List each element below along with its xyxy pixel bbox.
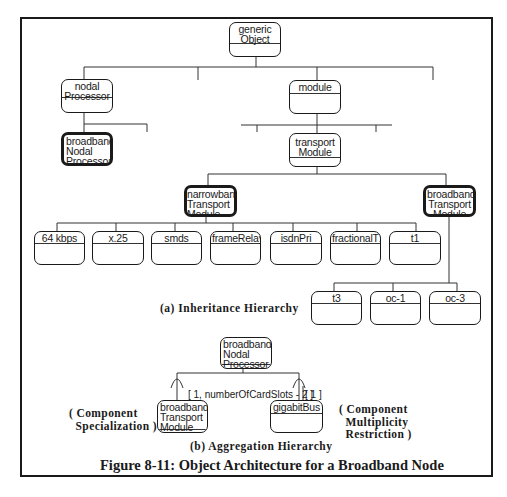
class-isdn-pri: isdnPri xyxy=(270,231,322,265)
part-gigabit-bus: gigabitBus xyxy=(270,400,323,433)
caption-inheritance-hierarchy: (a) Inheritance Hierarchy xyxy=(160,302,299,314)
class-name: broadband Transport Module xyxy=(426,188,473,215)
class-broadband-transport-module: broadband Transport Module xyxy=(423,185,476,217)
class-broadband-nodal-processor: broadband Nodal Processor xyxy=(61,132,113,166)
class-name: narrowband Transport Module xyxy=(187,188,234,215)
class-nodal-processor: nodal Processor xyxy=(61,79,113,113)
class-64kbps: 64 kbps xyxy=(34,231,85,265)
class-narrowband-transport-module: narrowband Transport Module xyxy=(184,185,237,217)
multiplicity-transport-module: [ 1, numberOfCardSlots - 2 ] xyxy=(188,389,313,400)
class-name: module xyxy=(290,81,340,94)
class-name: frameRelay xyxy=(211,232,260,244)
class-t1: t1 xyxy=(389,231,441,265)
multiplicity-gigabit-bus: [ 1 ] xyxy=(305,389,322,400)
caption-aggregation-hierarchy: (b) Aggregation Hierarchy xyxy=(190,440,332,452)
class-name: broadband Nodal Processor xyxy=(221,338,271,365)
class-oc1: oc-1 xyxy=(370,291,421,325)
aggregate-broadband-nodal-processor: broadband Nodal Processor xyxy=(220,337,272,369)
class-frame-relay: frameRelay xyxy=(210,231,261,265)
class-fractional-t1: fractionalT1 xyxy=(330,231,381,265)
class-name: generic Object xyxy=(230,23,280,44)
class-name: t3 xyxy=(312,292,361,304)
class-name: isdnPri xyxy=(271,232,321,244)
class-name: nodal Processor xyxy=(62,80,112,98)
class-name: broadband Transport Module xyxy=(158,401,207,430)
class-name: fractionalT1 xyxy=(331,232,380,244)
note-component-multiplicity-restriction: ( Component Multiplicity Restriction ) xyxy=(339,403,412,441)
class-oc3: oc-3 xyxy=(429,291,481,325)
class-name: oc-1 xyxy=(371,292,420,304)
class-transport-module: transport Module xyxy=(289,133,341,167)
class-name: oc-3 xyxy=(430,292,480,304)
class-t3: t3 xyxy=(311,291,362,325)
part-broadband-transport-module: broadband Transport Module xyxy=(157,400,208,433)
class-name: 64 kbps xyxy=(35,232,84,244)
class-name: smds xyxy=(152,232,201,244)
class-name: gigabitBus xyxy=(271,401,322,414)
class-x25: x.25 xyxy=(92,231,144,265)
class-name: x.25 xyxy=(93,232,143,244)
class-module: module xyxy=(289,80,341,114)
class-smds: smds xyxy=(151,231,202,265)
class-name: t1 xyxy=(390,232,440,244)
class-name: transport Module xyxy=(290,134,340,158)
note-component-specialization: ( Component Specialization ) xyxy=(69,407,157,432)
class-generic-object: generic Object xyxy=(229,22,281,57)
class-name: broadband Nodal Processor xyxy=(64,135,110,164)
figure-title: Figure 8-11: Object Architecture for a B… xyxy=(100,457,444,474)
